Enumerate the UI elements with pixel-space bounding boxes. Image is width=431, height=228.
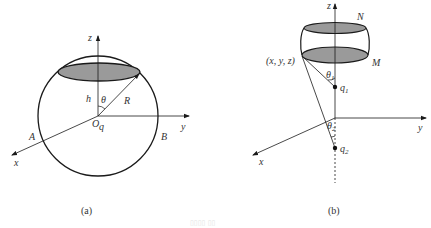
- label-B: B: [161, 131, 167, 142]
- caption-a: (a): [81, 205, 92, 217]
- cap-disk: [58, 63, 140, 81]
- panel-b: z N M (x, y, z) θ 1 q 1 θ 2 q 2 y x (b): [253, 0, 426, 217]
- theta-arc: [98, 106, 105, 109]
- label-z-b: z: [326, 0, 331, 11]
- label-q1-sub: 1: [345, 87, 349, 95]
- label-theta1-sub: 1: [331, 74, 335, 82]
- label-x-b: x: [258, 156, 264, 167]
- x-axis-b: [253, 118, 335, 155]
- label-theta-a: θ: [101, 94, 106, 105]
- x-axis: [12, 116, 98, 155]
- label-x-a: x: [13, 157, 19, 168]
- label-point-xyz: (x, y, z): [266, 55, 296, 67]
- barrel-right-side: [366, 28, 369, 55]
- label-h: h: [86, 93, 91, 104]
- charge-q2-dot: [333, 146, 337, 150]
- barrel-left-side: [301, 28, 304, 55]
- label-q: q: [99, 121, 104, 132]
- label-z-a: z: [87, 32, 92, 43]
- theta2-arc: [331, 136, 335, 137]
- charge-q1-dot: [333, 85, 337, 89]
- label-y-a: y: [180, 121, 186, 132]
- label-theta2-sub: 2: [332, 125, 336, 133]
- caption-b: (b): [328, 205, 340, 217]
- label-M: M: [371, 57, 381, 68]
- label-R: R: [123, 95, 130, 106]
- label-y-b: y: [417, 122, 423, 133]
- label-A: A: [28, 131, 36, 142]
- faint-footer-caption: ▯▯▯▯ ▯▯: [190, 219, 215, 227]
- figure-canvas: z h θ R O q A B y x (a): [0, 0, 431, 228]
- label-N: N: [356, 11, 365, 22]
- label-q2-sub: 2: [345, 148, 349, 156]
- panel-a: z h θ R O q A B y x (a): [12, 32, 189, 217]
